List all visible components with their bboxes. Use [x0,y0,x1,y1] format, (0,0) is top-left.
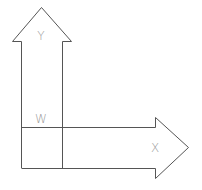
origin-label: W [35,112,47,126]
y-axis-label: Y [37,29,45,43]
x-axis-label: X [151,141,159,155]
axes-diagram: Y W X [0,0,202,190]
x-arrow [22,118,189,179]
